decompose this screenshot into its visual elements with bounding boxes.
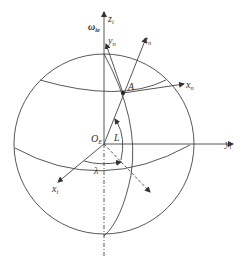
equator-arc	[15, 145, 190, 171]
longitude-label: λ	[93, 165, 99, 176]
latitude-arrow	[115, 119, 118, 124]
omega-ie-label: ωie	[88, 21, 100, 33]
y-i-label: yi	[224, 138, 231, 150]
z-i-label: zi	[107, 13, 114, 25]
longitude-angle-arc	[84, 161, 121, 164]
y-n-label: yn	[107, 35, 116, 47]
x-n-label: xn	[185, 79, 194, 91]
origin-label: OE	[91, 133, 102, 145]
x-i-axis	[58, 144, 104, 182]
z-n-label: zn	[143, 34, 151, 46]
y-n-axis	[106, 44, 123, 93]
point-a	[121, 91, 125, 95]
sphere-frame-diagram: zi ωie yn zn xn A OE L λ xi yi	[0, 0, 241, 267]
latitude-label: L	[113, 132, 120, 143]
point-a-label: A	[127, 81, 135, 92]
x-i-label: xi	[51, 183, 58, 195]
